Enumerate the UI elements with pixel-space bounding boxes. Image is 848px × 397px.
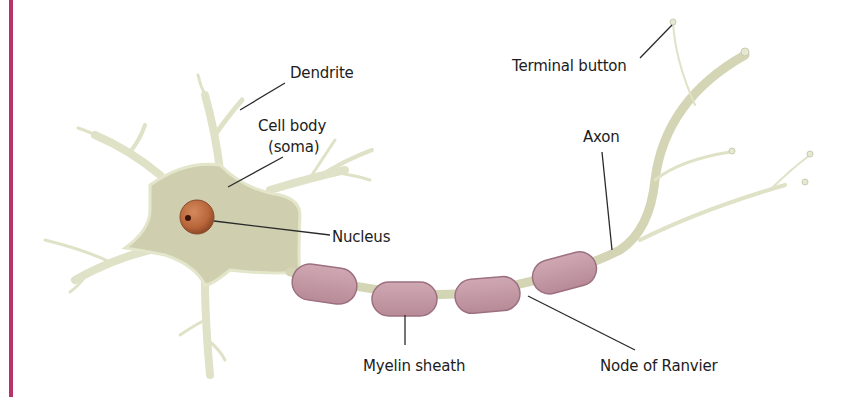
myelin-segments: [290, 248, 600, 316]
label-dendrite: Dendrite: [290, 64, 354, 82]
axon-shaft: [290, 55, 745, 294]
neuron-diagram: [0, 0, 848, 397]
label-myelin-sheath: Myelin sheath: [363, 357, 465, 375]
label-axon: Axon: [583, 128, 620, 146]
label-node-of-ranvier: Node of Ranvier: [600, 357, 717, 375]
nucleus: [180, 200, 214, 234]
label-cell-body: Cell body: [258, 117, 326, 135]
label-terminal-button: Terminal button: [512, 57, 627, 75]
nucleolus: [185, 215, 191, 221]
label-soma: (soma): [268, 138, 319, 156]
label-nucleus: Nucleus: [332, 228, 390, 246]
